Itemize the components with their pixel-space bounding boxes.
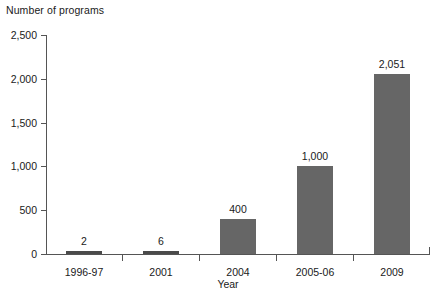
bar-value-label: 6 bbox=[158, 235, 164, 247]
y-axis-line bbox=[46, 35, 47, 254]
y-tick-label: 1,500 bbox=[11, 117, 37, 129]
bar-2009 bbox=[374, 74, 410, 254]
x-category-label: 2009 bbox=[380, 266, 403, 278]
bar-value-label: 2,051 bbox=[379, 58, 405, 70]
x-category-label: 2004 bbox=[226, 266, 249, 278]
x-axis-tick bbox=[122, 254, 123, 261]
x-axis-tick bbox=[353, 254, 354, 261]
bar-2004 bbox=[220, 219, 256, 254]
x-category-label: 2005-06 bbox=[296, 266, 335, 278]
x-axis-right-cap bbox=[429, 247, 430, 255]
x-axis-tick bbox=[276, 254, 277, 261]
bar-value-label: 400 bbox=[229, 203, 247, 215]
x-axis-tick bbox=[199, 254, 200, 261]
x-category-label: 2001 bbox=[149, 266, 172, 278]
x-category-label: 1996-97 bbox=[65, 266, 104, 278]
y-tick-label: 2,000 bbox=[11, 73, 37, 85]
y-tick-label: 1,000 bbox=[11, 160, 37, 172]
plot-area: 0 500 1,000 1,500 2,000 2,500 bbox=[46, 35, 430, 254]
y-tick-label: 2,500 bbox=[11, 29, 37, 41]
y-tick-label: 0 bbox=[31, 248, 37, 260]
x-axis-title: Year bbox=[0, 278, 444, 290]
y-tick-label: 500 bbox=[19, 204, 37, 216]
x-axis-line bbox=[46, 254, 430, 255]
bar-2001 bbox=[143, 251, 179, 254]
x-axis-title-text: Year bbox=[217, 278, 238, 290]
bar-1996-97 bbox=[66, 251, 102, 254]
bar-value-label: 2 bbox=[81, 235, 87, 247]
bar-chart: Number of programs 0 500 1,000 1,500 2,0… bbox=[0, 0, 444, 298]
bar-2005-06 bbox=[297, 166, 333, 254]
bar-value-label: 1,000 bbox=[302, 150, 328, 162]
y-axis-title: Number of programs bbox=[6, 4, 104, 16]
